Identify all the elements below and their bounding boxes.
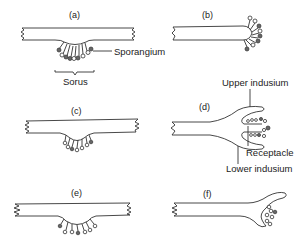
blade-e-lower-edge	[15, 215, 130, 225]
blade-f-reflexed-margin	[261, 208, 266, 226]
blade-c-lower-edge	[26, 132, 136, 141]
blade-e-torn-edge-right	[127, 203, 131, 215]
panel-e: (e)	[14, 188, 131, 235]
panel-d: (d) Upper indusium Receptacle Lower indu…	[171, 77, 294, 174]
panel-c: (c)	[25, 106, 139, 152]
lower-indusium-label: Lower indusium	[226, 163, 293, 174]
panel-d-label: (d)	[199, 102, 210, 112]
blade-e-upper-edge	[15, 203, 130, 204]
blade-d-torn-edge	[171, 122, 175, 135]
upper-indusium-label: Upper indusium	[222, 77, 289, 88]
blade-e-torn-edge-left	[14, 204, 20, 216]
sorus-f-sporangia	[265, 205, 277, 226]
fern-sori-diagram: (a) Sporangium	[0, 0, 305, 246]
panel-a-label: (a)	[69, 10, 80, 20]
blade-f-torn-edge	[172, 203, 177, 216]
sorus-label: Sorus	[63, 76, 88, 87]
sporangium-label: Sporangium	[114, 46, 165, 57]
panel-c-label: (c)	[71, 106, 82, 116]
sorus-e-sporangia	[58, 219, 97, 235]
panel-e-label: (e)	[71, 188, 82, 198]
panel-f: (f)	[172, 189, 286, 227]
panel-a: (a) Sporangium	[21, 10, 165, 87]
blade-b	[173, 26, 252, 40]
blade-f-lower-edge	[174, 216, 266, 227]
panel-b-label: (b)	[202, 10, 213, 20]
blade-c-torn-edge-left	[25, 121, 29, 133]
blade-lower-edge	[22, 40, 134, 45]
panel-b: (b)	[172, 10, 262, 51]
sorus-b-sporangia	[244, 16, 262, 51]
sorus-brace	[55, 70, 94, 75]
blade-torn-edge-right	[132, 28, 135, 40]
blade-c-upper-edge	[26, 119, 138, 121]
sorus-c-sporangia	[63, 135, 93, 152]
blade-b-torn-edge	[172, 27, 175, 40]
sorus-d-sporangia	[247, 117, 270, 137]
upper-indusium	[172, 106, 264, 122]
blade-torn-edge-left	[21, 28, 24, 40]
blade-c-torn-edge-right	[135, 119, 139, 132]
receptacle-label: Receptacle	[246, 147, 294, 158]
panel-f-label: (f)	[203, 189, 212, 199]
